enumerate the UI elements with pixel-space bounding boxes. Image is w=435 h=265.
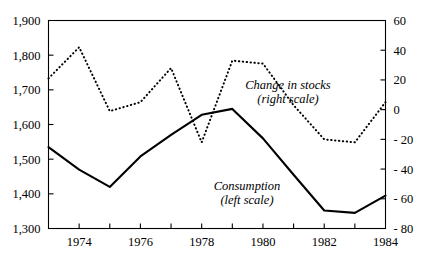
- left-axis-tick-label: 1,800: [12, 49, 40, 63]
- left-axis-tick-label: 1,400: [12, 187, 40, 201]
- left-axis-tick-label: 1,300: [12, 222, 40, 236]
- chart-figure: 1,3001,4001,5001,6001,7001,8001,900 - 80…: [0, 0, 435, 265]
- right-axis-tick-label: - 60: [394, 192, 414, 206]
- x-axis-tick-label: 1976: [128, 235, 153, 249]
- right-axis-tick-labels: - 80- 60- 40- 200204060: [394, 14, 414, 236]
- plot-area-border: [49, 21, 386, 229]
- x-axis-tick-label: 1974: [67, 235, 93, 249]
- left-axis-tick-label: 1,700: [12, 83, 40, 97]
- series-line-consumption: [49, 109, 386, 213]
- stocks-annotation: Change in stocks(right scale): [245, 78, 331, 106]
- right-axis-tick-label: - 20: [394, 133, 414, 147]
- x-axis-ticks: [79, 224, 355, 229]
- left-axis-tick-labels: 1,3001,4001,5001,6001,7001,8001,900: [12, 14, 40, 236]
- right-axis-tick-label: 0: [394, 103, 400, 117]
- x-axis-tick-label: 1984: [373, 235, 399, 249]
- chart-svg: 1,3001,4001,5001,6001,7001,8001,900 - 80…: [0, 0, 435, 265]
- right-axis-tick-label: 60: [394, 14, 407, 28]
- x-axis-tick-label: 1982: [312, 235, 337, 249]
- series-line-change-in-stocks: [49, 47, 386, 142]
- annotation-layer: Change in stocks(right scale)Consumption…: [214, 78, 331, 207]
- right-axis-tick-label: 40: [394, 44, 407, 58]
- right-axis-tick-label: 20: [394, 73, 407, 87]
- x-axis-tick-labels: 197419761978198019821984: [67, 235, 399, 249]
- x-axis-tick-label: 1980: [250, 235, 275, 249]
- plot-frame-group: [49, 21, 386, 229]
- consumption-annotation: Consumption(left scale): [214, 179, 281, 207]
- left-axis-tick-label: 1,900: [12, 14, 40, 28]
- x-axis-tick-label: 1978: [189, 235, 214, 249]
- right-axis-tick-label: - 40: [394, 163, 414, 177]
- left-axis-tick-label: 1,600: [12, 118, 40, 132]
- left-axis-tick-label: 1,500: [12, 153, 40, 167]
- right-axis-ticks: [381, 50, 386, 199]
